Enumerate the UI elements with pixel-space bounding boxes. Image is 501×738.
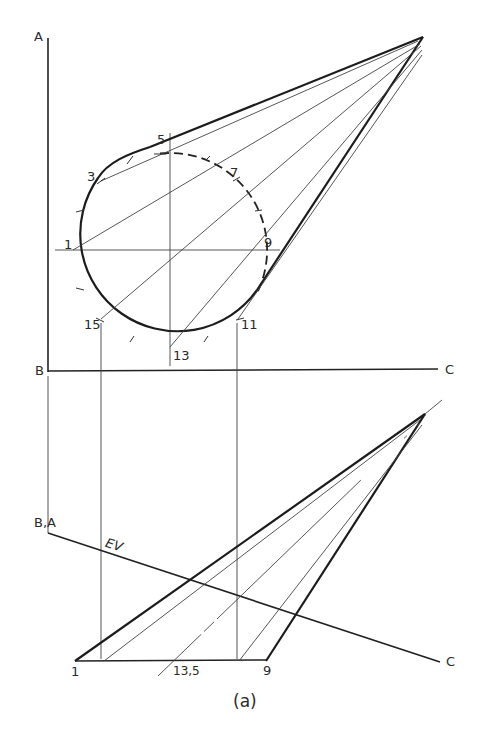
apex-extension xyxy=(425,400,442,414)
ray-11 xyxy=(238,55,422,319)
label-point-13: 13 xyxy=(173,349,190,362)
edge-ray-13-5 xyxy=(158,422,421,676)
figure-caption: (a) xyxy=(233,693,257,710)
edge-view-line xyxy=(48,533,440,662)
edge-ray-15 xyxy=(104,420,420,661)
label-a: A xyxy=(34,30,43,43)
label-point-1: 1 xyxy=(64,238,72,251)
label-point-5: 5 xyxy=(157,133,165,146)
label-c-bottom: C xyxy=(446,655,455,668)
label-point-3: 3 xyxy=(87,170,95,183)
label-edge-point-1: 1 xyxy=(71,665,79,678)
label-b-a: B,A xyxy=(34,516,56,529)
descriptive-geometry-figure: A 5 3 7 1 9 15 11 13 B C B,A EV C 1 13,5… xyxy=(0,0,501,738)
label-point-7: 7 xyxy=(230,166,238,179)
reference-line-bc xyxy=(48,369,438,371)
upper-tangent-edge xyxy=(150,37,423,147)
label-edge-point-13-5: 13,5 xyxy=(173,665,200,677)
hidden-arc xyxy=(160,153,267,291)
triangle-edge-1 xyxy=(75,414,425,661)
triangle-edge-9 xyxy=(266,414,425,661)
label-c-top: C xyxy=(445,363,454,376)
ray-1 xyxy=(73,44,420,250)
ray-15 xyxy=(101,46,421,319)
lower-tangent-edge xyxy=(257,37,423,290)
label-point-9: 9 xyxy=(264,236,272,249)
drawing-canvas xyxy=(0,0,501,738)
triangle-base xyxy=(75,660,266,661)
label-point-15: 15 xyxy=(84,318,101,331)
label-edge-point-9: 9 xyxy=(263,664,271,677)
label-point-11: 11 xyxy=(241,318,258,331)
label-b: B xyxy=(35,364,44,377)
